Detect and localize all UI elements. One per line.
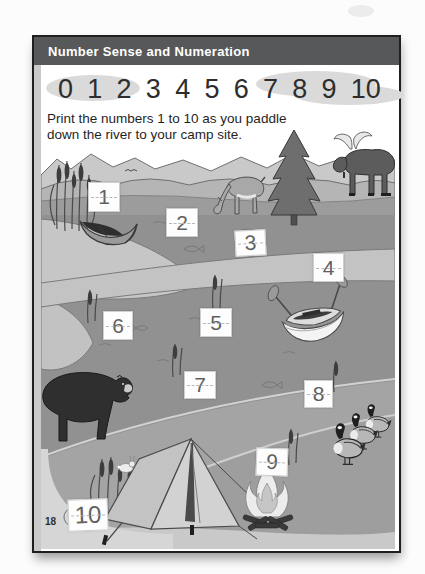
trace-box-2[interactable]: 2 [166,208,198,237]
section-header: Number Sense and Numeration [34,37,399,65]
digit-1: 1 [87,74,102,105]
digit-5: 5 [204,74,219,105]
trace-box-6[interactable]: 6 [103,311,133,340]
number-chart: 0 1 2 3 4 5 6 7 8 9 10 [34,67,399,111]
digit-9: 9 [322,74,337,105]
digit-8: 8 [292,74,307,105]
instructions-line1: Print the numbers 1 to 10 as you paddle [47,111,307,127]
digit-3: 3 [146,74,161,105]
page-gutter [34,65,41,551]
digit-10: 10 [351,74,381,105]
pine-tree [268,130,320,225]
trace-box-4[interactable]: 4 [313,253,344,282]
page-number: 18 [45,516,56,527]
river-scene: 1 2 3 4 5 6 7 8 9 10 [41,127,395,549]
trace-box-3[interactable]: 3 [234,229,266,257]
digit-0: 0 [58,74,73,105]
trace-box-5[interactable]: 5 [200,308,232,337]
trace-box-8[interactable]: 8 [304,380,333,408]
trace-box-9[interactable]: 9 [256,447,289,476]
scan-smudge [348,5,374,17]
trace-box-10[interactable]: 10 [67,498,108,531]
trace-box-1[interactable]: 1 [88,182,120,212]
digit-4: 4 [175,74,190,105]
section-title: Number Sense and Numeration [48,44,250,59]
trace-box-7[interactable]: 7 [184,371,216,399]
digit-6: 6 [234,74,249,105]
workbook-page: Number Sense and Numeration 0 1 2 3 4 5 … [32,35,401,553]
digit-7: 7 [263,74,278,105]
number-chart-digits: 0 1 2 3 4 5 6 7 8 9 10 [34,67,399,111]
digit-2: 2 [117,74,132,105]
